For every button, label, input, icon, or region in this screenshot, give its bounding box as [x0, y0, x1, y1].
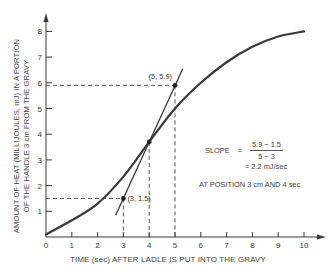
- slope-annotation: SLOPE = 5.9 − 1.5 5 − 3 = 2.2 mJ/sec AT …: [205, 140, 300, 189]
- y-tick-label: 2: [38, 182, 43, 191]
- slope-fraction: 5.9 − 1.5 5 − 3: [250, 140, 283, 161]
- x-axis-label: TIME (sec) AFTER LADLE IS PUT INTO THE G…: [70, 255, 330, 264]
- x-tick-label: 4: [147, 241, 152, 250]
- y-tick-label: 8: [38, 27, 43, 36]
- slope-equals: =: [238, 146, 242, 155]
- x-tick-label: 6: [199, 241, 204, 250]
- y-tick-label: 5: [38, 105, 43, 114]
- position-note: AT POSITION 3 cm AND 4 sec: [199, 180, 300, 189]
- y-tick-label: 1: [38, 207, 43, 216]
- y-tick-label: 4: [38, 130, 43, 139]
- y-tick-label: 6: [38, 79, 43, 88]
- x-tick-label: 5: [173, 241, 178, 250]
- slope-result: = 2.2 mJ/sec: [245, 162, 300, 171]
- dashed-guides: [46, 85, 175, 237]
- data-point: [173, 83, 178, 88]
- x-tick-label: 9: [276, 241, 281, 250]
- x-tick-label: 3: [121, 241, 126, 250]
- x-tick-label: 8: [250, 241, 255, 250]
- x-tick-label: 0: [44, 241, 49, 250]
- axes: [46, 20, 318, 237]
- x-axis-arrow-icon: [317, 235, 326, 240]
- data-point: [121, 196, 126, 201]
- x-ticks: 012345678910: [44, 232, 309, 250]
- slope-label: SLOPE: [205, 146, 230, 155]
- slope-denominator: 5 − 3: [258, 151, 275, 161]
- x-tick-label: 7: [224, 241, 229, 250]
- x-tick-label: 1: [70, 241, 75, 250]
- y-tick-label: 3: [38, 156, 43, 165]
- x-tick-label: 2: [95, 241, 100, 250]
- slope-numerator: 5.9 − 1.5: [250, 140, 283, 151]
- y-axis-arrow-icon: [44, 13, 49, 22]
- x-tick-label: 10: [300, 241, 309, 250]
- y-axis-label-line1: AMOUNT OF HEAT (MILLIJOULES, mJ) IN A PO…: [12, 36, 22, 236]
- y-axis-label: AMOUNT OF HEAT (MILLIJOULES, mJ) IN A PO…: [12, 36, 32, 236]
- y-axis-label-line2: OF THE HANDLE 3 cm FROM THE GRAVY: [22, 36, 32, 236]
- y-tick-label: 7: [38, 53, 43, 62]
- point-label: (3, 1.5): [127, 194, 150, 203]
- heat-vs-time-chart: 012345678910 12345678 (3, 1.5)(5, 5.9): [0, 0, 333, 274]
- data-point: [147, 140, 152, 145]
- point-label: (5, 5.9): [149, 72, 172, 81]
- heat-curve: [46, 31, 304, 234]
- y-ticks: 12345678: [38, 27, 52, 216]
